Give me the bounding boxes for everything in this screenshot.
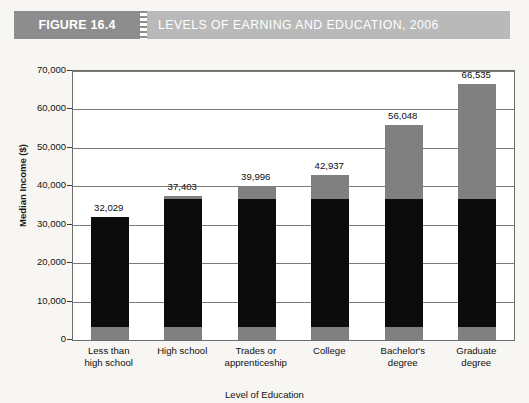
y-axis-tick-label: 10,000 [6, 295, 66, 306]
bar-value-label: 37,403 [142, 181, 222, 192]
bar-value-label: 66,535 [436, 69, 516, 80]
x-axis-tick-label-line: Graduate [428, 345, 524, 357]
bar-segment-base [458, 327, 496, 340]
gridline [73, 109, 514, 110]
bar[interactable] [385, 125, 423, 340]
bar-segment-main [385, 199, 423, 327]
gridline [73, 186, 514, 187]
bar-segment-upper [385, 125, 423, 199]
gridline [73, 302, 514, 303]
y-axis-tick-mark [67, 147, 72, 148]
bar-value-label: 39,996 [216, 171, 296, 182]
gridline [73, 225, 514, 226]
bar-segment-main [238, 199, 276, 327]
bar-segment-base [311, 327, 349, 340]
y-axis-tick-mark [67, 108, 72, 109]
header-dotted-divider [140, 11, 147, 39]
gridline [73, 148, 514, 149]
bar[interactable] [164, 196, 202, 340]
figure-title-text: LEVELS OF EARNING AND EDUCATION, 2006 [158, 18, 439, 32]
bar-value-label: 42,937 [289, 160, 369, 171]
bar-segment-base [164, 327, 202, 340]
bar-segment-upper [458, 84, 496, 198]
bar-segment-base [385, 327, 423, 340]
figure-number-text: FIGURE 16.4 [38, 18, 115, 32]
x-axis-tick-label-line: high school [61, 357, 157, 369]
y-axis-tick-label: 30,000 [6, 218, 66, 229]
y-axis-tick-label: 40,000 [6, 179, 66, 190]
bar-segment-main [311, 199, 349, 327]
bar-value-label: 56,048 [363, 110, 443, 121]
y-axis-tick-mark [67, 301, 72, 302]
bar-segment-main [164, 199, 202, 327]
y-axis-tick-mark [67, 262, 72, 263]
bar-value-label: 32,029 [69, 202, 149, 213]
bar[interactable] [238, 186, 276, 340]
x-axis-baseline [73, 340, 514, 341]
figure-title-band: LEVELS OF EARNING AND EDUCATION, 2006 [147, 11, 510, 39]
bar-segment-base [91, 327, 129, 340]
y-axis-tick-label: 20,000 [6, 256, 66, 267]
figure-number-tag: FIGURE 16.4 [14, 11, 140, 39]
figure-header-band: FIGURE 16.4 LEVELS OF EARNING AND EDUCAT… [14, 11, 510, 39]
y-axis-tick-mark [67, 339, 72, 340]
y-axis-tick-mark [67, 224, 72, 225]
gridline [73, 263, 514, 264]
bar-segment-main [458, 199, 496, 327]
bar-segment-base [238, 327, 276, 340]
bar[interactable] [311, 175, 349, 340]
y-axis-tick-label: 60,000 [6, 102, 66, 113]
bar-segment-upper [238, 186, 276, 198]
bar[interactable] [458, 84, 496, 340]
y-axis-tick-label: 70,000 [6, 64, 66, 75]
y-axis-tick-label: 50,000 [6, 141, 66, 152]
x-axis-tick-label-line: apprenticeship [208, 357, 304, 369]
y-axis-tick-mark [67, 70, 72, 71]
y-axis-tick-mark [67, 185, 72, 186]
x-axis-tick-label: Graduatedegree [428, 345, 524, 368]
bar-chart: Median Income ($) 70,00060,00050,00040,0… [0, 40, 529, 403]
x-axis-tick-label-line: degree [428, 357, 524, 369]
bar[interactable] [91, 217, 129, 340]
x-axis-title: Level of Education [0, 389, 529, 400]
y-axis-tick-label: 0 [6, 333, 66, 344]
bar-segment-upper [311, 175, 349, 199]
bar-segment-main [91, 217, 129, 327]
